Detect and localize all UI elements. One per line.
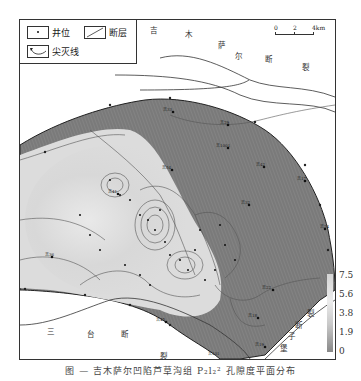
- legend-well: 井位: [27, 26, 70, 39]
- legend: 井位 断层 尖灭线: [20, 20, 137, 64]
- well-label: 吉22: [262, 284, 271, 290]
- well-label: 吉17: [297, 175, 306, 181]
- fault-label: 断: [121, 328, 128, 339]
- colorbar-tick: 7.5: [339, 270, 353, 280]
- colorbar-tick: 0: [339, 346, 345, 356]
- well-dot-icon: [27, 26, 49, 39]
- well-label: 吉42: [256, 161, 265, 167]
- colorbar-tick: 1.9: [339, 327, 353, 337]
- fault-label: 裂: [302, 61, 309, 72]
- fault-label: 断: [295, 319, 302, 330]
- contour-map: [20, 20, 335, 359]
- well-label: 吉18: [248, 312, 257, 318]
- well-label: 吉24: [320, 223, 329, 229]
- well-label: 吉32: [241, 199, 250, 205]
- legend-pinchout: 尖灭线: [27, 45, 79, 58]
- well-label: 吉1001: [216, 142, 230, 148]
- well-label: 吉54: [162, 164, 171, 170]
- colorbar-tick: 5.6: [339, 289, 353, 299]
- fault-label: 裂: [307, 307, 314, 318]
- porosity-colorbar: [327, 274, 333, 352]
- fault-line-icon: [84, 26, 106, 39]
- well-label: 吉29: [220, 119, 229, 125]
- legend-fault: 断层: [84, 26, 127, 39]
- well-label: 吉19: [255, 341, 264, 347]
- fault-label: 吉: [150, 24, 157, 35]
- pinchout-line-icon: [27, 45, 49, 58]
- colorbar-tick: 3.8: [339, 308, 353, 318]
- fault-label: 三: [47, 325, 54, 336]
- fault-label: 裂: [160, 350, 167, 360]
- well-label: 吉41: [108, 188, 117, 194]
- well-label: 吉33: [163, 106, 172, 112]
- legend-pinchout-label: 尖灭线: [52, 45, 79, 58]
- high-porosity-core: [25, 145, 205, 295]
- fault-label: 子: [288, 330, 295, 341]
- scale-tick: 2: [293, 24, 297, 31]
- map-frame: 吉33 吉29 吉1001 吉54 吉42 吉17 吉32 吉24 吉41 吉2…: [19, 19, 336, 360]
- legend-fault-label: 断层: [109, 26, 127, 39]
- figure-caption: 图 — 吉木萨尔凹陷芦草沟组 P₂l₂² 孔隙度平面分布: [0, 364, 361, 377]
- fault-label: 台: [87, 328, 94, 339]
- fault-label: 尔: [235, 50, 242, 61]
- well-label: 吉45: [156, 316, 165, 322]
- scale-tick: 4km: [312, 24, 325, 31]
- scale-bar: 0 2 4km: [274, 24, 324, 40]
- scale-tick: 0: [274, 24, 278, 31]
- well-label: 吉36: [45, 251, 54, 257]
- legend-well-label: 井位: [52, 26, 70, 39]
- fault-branch: [140, 80, 249, 90]
- fault-label: 后: [260, 357, 267, 360]
- well-label: 吉101: [208, 350, 220, 356]
- fault-label: 断: [265, 53, 272, 64]
- fault-label: 木: [185, 28, 192, 39]
- fault-label: 堡: [280, 342, 287, 353]
- fault-label: 萨: [218, 39, 225, 50]
